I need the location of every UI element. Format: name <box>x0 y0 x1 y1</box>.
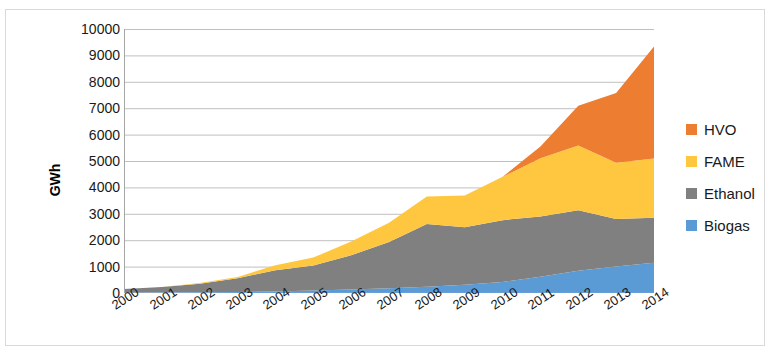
stacked-area-chart: GWh 100009000800070006000500040003000200… <box>0 0 775 353</box>
x-axis-tick-label: 2003 <box>223 284 255 312</box>
x-axis-tick-label: 2009 <box>450 284 482 312</box>
x-axis-tick-label: 2005 <box>298 284 330 312</box>
x-axis-tick-label: 2001 <box>147 284 179 312</box>
legend-swatch-icon <box>686 156 697 167</box>
x-axis-tick-label: 2011 <box>525 285 557 313</box>
legend-item-biogas[interactable]: Biogas <box>686 209 771 241</box>
legend-label: Biogas <box>704 217 750 234</box>
legend-label: Ethanol <box>704 185 755 202</box>
legend-label: HVO <box>704 121 737 138</box>
x-axis-tick-label: 2013 <box>601 284 633 312</box>
x-axis-tick-label: 2014 <box>639 284 671 312</box>
x-axis-tick-labels: 2000200120022003200420052006200720082009… <box>0 0 775 353</box>
x-axis-tick-label: 2002 <box>185 284 217 312</box>
x-axis-tick-label: 2008 <box>412 284 444 312</box>
legend-item-hvo[interactable]: HVO <box>686 113 771 145</box>
x-axis-tick-label: 2004 <box>260 284 292 312</box>
legend-swatch-icon <box>686 124 697 135</box>
legend-label: FAME <box>704 153 745 170</box>
x-axis-tick-label: 2012 <box>563 284 595 312</box>
legend-item-fame[interactable]: FAME <box>686 145 771 177</box>
legend-swatch-icon <box>686 220 697 231</box>
x-axis-tick-label: 2000 <box>109 284 141 312</box>
x-axis-tick-label: 2007 <box>374 284 406 312</box>
chart-legend: HVOFAMEEthanolBiogas <box>686 113 771 241</box>
legend-swatch-icon <box>686 188 697 199</box>
x-axis-tick-label: 2010 <box>488 284 520 312</box>
legend-item-ethanol[interactable]: Ethanol <box>686 177 771 209</box>
x-axis-tick-label: 2006 <box>336 284 368 312</box>
